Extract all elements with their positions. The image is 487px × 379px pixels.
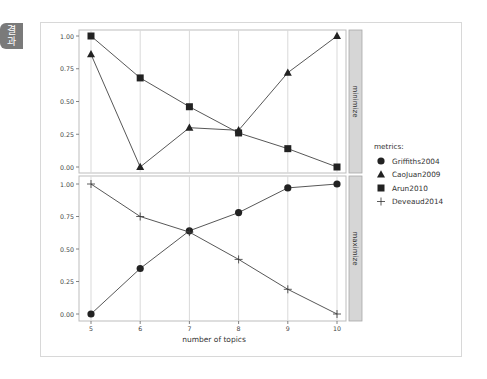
x-tick-label: 6 (138, 325, 142, 332)
x-tick-label: 7 (187, 325, 191, 332)
legend-entry-label: Griffiths2004 (392, 157, 440, 166)
y-tick-label: 0.25 (60, 278, 74, 285)
square-marker (334, 164, 341, 171)
legend: metrics:Griffiths2004CaoJuan2009Arun2010… (374, 142, 444, 206)
y-tick-label: 0.00 (60, 164, 74, 171)
square-marker (235, 129, 242, 136)
x-tick-label: 8 (237, 325, 241, 332)
x-tick-label: 9 (286, 325, 290, 332)
plus-marker (377, 198, 385, 206)
circle-marker (87, 310, 94, 317)
circle-marker (284, 184, 291, 191)
panel-minimize: 0.000.250.500.751.00minimize (60, 30, 362, 173)
circle-marker (333, 180, 340, 187)
x-tick-label: 10 (333, 325, 341, 332)
facet-strip-label: maximize (351, 232, 359, 266)
y-tick-label: 0.00 (60, 311, 74, 318)
y-tick-label: 0.75 (60, 213, 74, 220)
facet-strip-label: minimize (351, 86, 359, 118)
y-tick-label: 0.50 (60, 246, 74, 253)
square-marker (378, 185, 385, 192)
y-tick-label: 0.50 (60, 98, 74, 105)
legend-entry-label: Deveaud2014 (392, 197, 444, 206)
y-tick-label: 0.75 (60, 65, 74, 72)
y-tick-label: 1.00 (60, 181, 74, 188)
legend-entry-label: CaoJuan2009 (392, 170, 441, 179)
faceted-line-chart: 0.000.250.500.751.00minimize0.000.250.50… (0, 0, 487, 379)
circle-marker (377, 157, 384, 164)
triangle-marker (377, 170, 385, 177)
square-marker (284, 145, 291, 152)
x-tick-label: 5 (89, 325, 93, 332)
legend-title: metrics: (374, 142, 404, 151)
x-axis-label: number of topics (182, 335, 246, 344)
square-marker (137, 74, 144, 81)
circle-marker (137, 265, 144, 272)
y-tick-label: 0.25 (60, 131, 74, 138)
square-marker (88, 33, 95, 40)
y-tick-label: 1.00 (60, 33, 74, 40)
legend-entry-label: Arun2010 (392, 184, 428, 193)
panel-maximize: 0.000.250.500.751.00maximize (60, 176, 362, 321)
square-marker (186, 103, 193, 110)
circle-marker (235, 209, 242, 216)
